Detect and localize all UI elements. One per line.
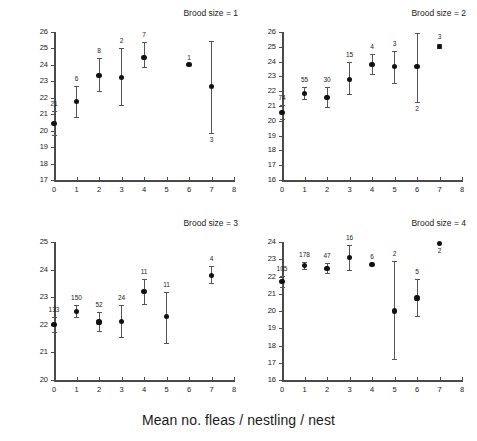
sample-size-label: 24 (108, 295, 136, 302)
y-tick (279, 91, 283, 92)
error-bar-cap-lower (280, 287, 285, 288)
panel-brood-size-1: Brood size = 117181920212223242526012345… (22, 6, 244, 206)
sample-size-label: 150 (63, 295, 91, 302)
panel-brood-size-2: Brood size = 216171819202122232425260123… (250, 6, 472, 206)
sample-size-label: 5 (403, 269, 431, 276)
data-point-marker (392, 308, 397, 313)
data-point-marker (74, 309, 79, 314)
error-bar-cap-lower (142, 304, 147, 305)
x-tick-label: 8 (452, 386, 472, 394)
error-bar-cap-lower (97, 331, 102, 332)
x-tick (350, 177, 351, 181)
error-bar-cap-lower (392, 83, 397, 84)
x-tick-label: 6 (407, 186, 427, 194)
y-tick (51, 98, 55, 99)
y-tick-label: 21 (28, 348, 48, 356)
y-tick (51, 32, 55, 33)
data-point-marker (369, 262, 374, 267)
sample-size-label: 2 (381, 251, 409, 258)
y-tick-label: 20 (28, 127, 48, 135)
error-bar-cap-upper (392, 51, 397, 52)
sample-size-label: 7 (130, 32, 158, 39)
data-point-marker (279, 110, 284, 115)
y-tick-label: 25 (28, 44, 48, 52)
error-bar-cap-upper (347, 245, 352, 246)
x-tick-label: 1 (67, 186, 87, 194)
x-tick (462, 377, 463, 381)
x-tick-label: 1 (295, 186, 315, 194)
data-point-marker (414, 64, 419, 69)
y-tick-label: 18 (256, 342, 276, 350)
x-tick (99, 177, 100, 181)
y-tick-label: 17 (256, 359, 276, 367)
x-tick-label: 6 (179, 186, 199, 194)
x-tick-label: 5 (157, 186, 177, 194)
error-bar-cap-upper (74, 305, 79, 306)
x-tick (167, 377, 168, 381)
data-point-marker (302, 91, 307, 96)
error-bar-cap-upper (74, 86, 79, 87)
plot-area: 202122232425012345678133150522411114 (54, 242, 234, 380)
error-bar-cap-upper (302, 87, 307, 88)
y-tick (279, 346, 283, 347)
y-tick (51, 65, 55, 66)
sample-size-label: 30 (313, 77, 341, 84)
y-tick-label: 23 (256, 72, 276, 80)
y-tick-label: 19 (28, 143, 48, 151)
y-tick (279, 259, 283, 260)
error-bar-cap-lower (74, 317, 79, 318)
plot-area: 1617181920212223242526012345678745530154… (282, 32, 462, 180)
y-tick (51, 164, 55, 165)
data-point-marker (119, 75, 124, 80)
x-tick (395, 177, 396, 181)
y-tick (279, 242, 283, 243)
x-tick (305, 377, 306, 381)
y-tick (279, 76, 283, 77)
sample-size-label: 74 (268, 95, 296, 102)
data-point-marker (369, 62, 374, 67)
x-tick (327, 177, 328, 181)
sample-size-label: 11 (130, 269, 158, 276)
x-tick-label: 2 (317, 186, 337, 194)
x-tick (440, 177, 441, 181)
panel-title: Brood size = 3 (183, 218, 238, 228)
error-bar-cap-lower (302, 99, 307, 100)
error-bar-cap-lower (164, 343, 169, 344)
y-tick (279, 363, 283, 364)
data-point-marker (324, 95, 329, 100)
sample-size-label: 105 (268, 266, 296, 273)
x-tick-label: 5 (385, 186, 405, 194)
y-tick-label: 19 (256, 132, 276, 140)
x-tick (189, 377, 190, 381)
sample-size-label: 16 (336, 235, 364, 242)
x-tick-label: 7 (202, 386, 222, 394)
y-tick-label: 22 (256, 273, 276, 281)
y-tick-label: 22 (256, 87, 276, 95)
x-axis-label: Mean no. fleas / nestling / nest (0, 412, 477, 428)
data-point-marker (302, 263, 307, 268)
error-bar-cap-lower (280, 119, 285, 120)
data-point-marker (186, 62, 191, 67)
error-bar-cap-lower (370, 74, 375, 75)
sample-size-label: 1 (175, 55, 203, 62)
y-tick-label: 24 (28, 266, 48, 274)
sample-size-label: 8 (85, 48, 113, 55)
y-tick (51, 270, 55, 271)
x-tick (462, 177, 463, 181)
sample-size-label: 3 (381, 41, 409, 48)
error-bar-cap-upper (142, 42, 147, 43)
error-bar-cap-lower (52, 135, 57, 136)
data-point-marker (209, 84, 214, 89)
error-bar-cap-lower (119, 105, 124, 106)
y-tick-label: 17 (256, 161, 276, 169)
x-tick (189, 177, 190, 181)
data-point-marker (164, 314, 169, 319)
x-tick-label: 6 (407, 386, 427, 394)
x-tick (77, 177, 78, 181)
y-tick-label: 16 (256, 176, 276, 184)
error-bar-cap-lower (347, 270, 352, 271)
x-tick (372, 377, 373, 381)
error-bar-cap-upper (52, 111, 57, 112)
x-tick (417, 177, 418, 181)
x-tick-label: 0 (44, 386, 64, 394)
